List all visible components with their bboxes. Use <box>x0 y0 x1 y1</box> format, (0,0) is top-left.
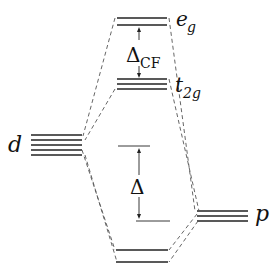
delta-symbol: Δ <box>130 175 144 199</box>
eg-level <box>117 18 167 25</box>
delta-cf-symbol: Δ <box>126 43 140 67</box>
t2g-label-sub: 2g <box>182 85 201 101</box>
d-level <box>31 135 82 155</box>
p-level <box>197 211 248 221</box>
energy-level-diagram: Δ CF Δ e g t 2g d p <box>0 0 276 272</box>
d-label: d <box>8 132 22 157</box>
delta-cf-subscript: CF <box>140 55 161 71</box>
bonding-level <box>116 250 168 262</box>
t2g-level <box>117 79 167 89</box>
p-label: p <box>255 201 269 226</box>
eg-label-sub: g <box>187 19 196 35</box>
